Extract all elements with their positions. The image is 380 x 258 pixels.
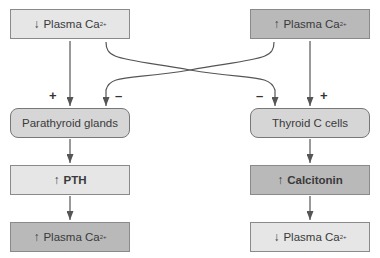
parathyroid-glands-box: Parathyroid glands [10,108,130,138]
pth-box: ↑ PTH [10,165,130,195]
result-label: Plasma Ca [43,231,99,243]
result-label: Plasma Ca [283,231,339,243]
charge-superscript: 2+ [340,21,347,27]
inhibit-minus-sign: – [256,88,263,103]
left-stimulus-box: ↓ Plasma Ca2+ [10,9,130,39]
hormone-label: PTH [64,174,87,186]
stimulate-plus-sign: + [320,88,328,103]
calcitonin-box: ↑ Calcitonin [250,165,370,195]
effector-label: Thyroid C cells [272,117,348,129]
left-result-box: ↑ Plasma Ca2+ [10,222,130,252]
charge-superscript: 2+ [340,234,347,240]
right-result-box: ↓ Plasma Ca2+ [250,222,370,252]
up-arrow-icon: ↑ [277,173,283,187]
stimulus-label: Plasma Ca [283,18,339,30]
thyroid-c-cells-box: Thyroid C cells [250,108,370,138]
up-arrow-icon: ↑ [33,230,39,244]
down-arrow-icon: ↓ [33,17,39,31]
charge-superscript: 2+ [100,21,107,27]
effector-label: Parathyroid glands [22,117,118,129]
up-arrow-icon: ↑ [273,17,279,31]
right-stimulus-box: ↑ Plasma Ca2+ [250,9,370,39]
stimulate-plus-sign: + [49,88,57,103]
hormone-label: Calcitonin [287,174,343,186]
down-arrow-icon: ↓ [273,230,279,244]
inhibit-minus-sign: – [115,88,122,103]
charge-superscript: 2+ [100,234,107,240]
stimulus-label: Plasma Ca [43,18,99,30]
up-arrow-icon: ↑ [54,173,60,187]
